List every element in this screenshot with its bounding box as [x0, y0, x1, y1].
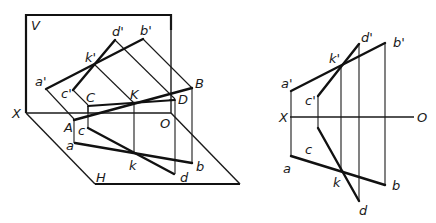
- label-X-ortho: X: [278, 110, 289, 125]
- label-k-prime-ortho: k': [329, 51, 340, 66]
- label-a-prime-ortho: a': [281, 76, 293, 91]
- projector-B-to-b-prime: [143, 39, 192, 88]
- label-d: d: [180, 170, 189, 185]
- label-B: B: [195, 76, 204, 91]
- label-d-prime: d': [112, 24, 124, 39]
- label-c-prime-ortho: c': [305, 93, 316, 108]
- label-V: V: [31, 18, 41, 33]
- label-b-prime: b': [140, 23, 152, 38]
- label-b-ortho: b: [392, 178, 400, 193]
- line-cd-ortho: [318, 128, 359, 201]
- label-D: D: [178, 92, 188, 107]
- pictorial-view: V H X O a' c' k' d' b' C K B D A c a k b…: [11, 15, 240, 185]
- label-d-prime-ortho: d': [361, 30, 373, 45]
- label-a-prime: a': [35, 74, 47, 89]
- label-H: H: [96, 170, 106, 185]
- orthographic-view: X O a' c' k' d' b' c a k b d: [278, 30, 427, 218]
- label-c: c: [78, 123, 85, 138]
- label-A: A: [63, 120, 73, 135]
- label-b: b: [196, 159, 204, 174]
- label-O-pictorial: O: [160, 116, 170, 131]
- label-k: k: [129, 158, 137, 173]
- label-b-prime-ortho: b': [393, 35, 405, 50]
- label-X-pictorial: X: [11, 106, 22, 121]
- label-c-prime: c': [61, 86, 72, 101]
- label-O-ortho: O: [417, 110, 427, 125]
- label-c-ortho: c: [305, 142, 312, 157]
- label-C: C: [86, 90, 96, 105]
- label-k-ortho: k: [333, 175, 341, 190]
- projector-K-to-k-prime: [94, 64, 134, 103]
- label-K: K: [130, 87, 140, 102]
- label-k-prime: k': [85, 50, 96, 65]
- label-a-ortho: a: [283, 161, 291, 176]
- projection-diagram: V H X O a' c' k' d' b' C K B D A c a k b…: [0, 0, 436, 223]
- label-d-ortho: d: [359, 203, 368, 218]
- line-c-prime-d-prime: [73, 40, 115, 90]
- label-a: a: [66, 138, 74, 153]
